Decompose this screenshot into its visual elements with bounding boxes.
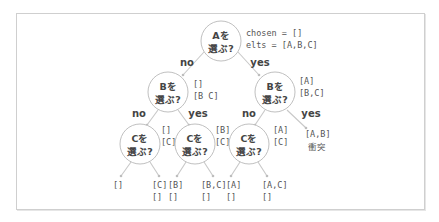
node-c-2: Cを 選ぶ? <box>175 124 215 164</box>
node-label: 選ぶ? <box>208 43 234 54</box>
state-chosen: [] <box>193 79 203 89</box>
state-chosen: [] <box>161 125 171 135</box>
edge-label-no: no <box>242 108 256 119</box>
node-label: 選ぶ? <box>182 146 208 157</box>
leaves: [] [C] [] [B] [] [B,C] [] [A] [] [A,C] [… <box>113 180 288 202</box>
node-label: 選ぶ? <box>236 146 262 157</box>
edge-label-no: no <box>132 108 146 119</box>
state-chosen: [A] <box>299 76 314 86</box>
pruned-state: [A,B] <box>305 129 331 139</box>
leaf-chosen: [] <box>113 180 123 190</box>
edge-label-yes: yes <box>250 57 269 68</box>
leaf-chosen: [C] <box>152 180 167 190</box>
node-label: Cを <box>241 133 258 144</box>
decision-tree: Aを 選ぶ? chosen = [] elts = [A,B,C] no yes… <box>0 0 439 222</box>
leaf-chosen: [B,C] <box>201 180 227 190</box>
node-label: Bを <box>159 81 176 92</box>
state-elts: elts = [A,B,C] <box>246 40 318 50</box>
conflict-note: 衝突 <box>308 142 326 152</box>
node-label: 選ぶ? <box>127 146 153 157</box>
edge-label-no: no <box>180 57 194 68</box>
state-elts: [C] <box>215 137 230 147</box>
state-chosen: [A] <box>273 125 288 135</box>
node-c-1: Cを 選ぶ? <box>120 124 160 164</box>
node-label: Aを <box>212 30 229 41</box>
leaf-chosen: [B] <box>168 180 183 190</box>
leaf-elts: [] <box>152 192 162 202</box>
node-label: Bを <box>266 81 283 92</box>
node-c-3: Cを 選ぶ? <box>229 124 269 164</box>
leaf-elts: [] <box>168 192 178 202</box>
state-elts: [C] <box>161 137 176 147</box>
state-chosen: chosen = [] <box>246 28 302 38</box>
leaf-elts: [] <box>262 192 272 202</box>
state-elts: [B C] <box>193 91 219 101</box>
edge-label-yes: yes <box>301 108 320 119</box>
state-elts: [C] <box>273 137 288 147</box>
leaf-elts: [] <box>226 192 236 202</box>
node-b-right: Bを 選ぶ? <box>255 72 295 112</box>
leaf-chosen: [A,C] <box>262 180 288 190</box>
node-label: Cを <box>187 133 204 144</box>
node-label: Cを <box>132 133 149 144</box>
state-chosen: [B] <box>215 125 230 135</box>
node-label: 選ぶ? <box>262 94 288 105</box>
node-b-left: Bを 選ぶ? <box>148 72 188 112</box>
edge-label-yes: yes <box>188 108 207 119</box>
state-elts: [B,C] <box>299 88 325 98</box>
node-root-a: Aを 選ぶ? <box>201 21 241 61</box>
node-label: 選ぶ? <box>155 94 181 105</box>
leaf-chosen: [A] <box>226 180 241 190</box>
leaf-elts: [] <box>201 192 211 202</box>
